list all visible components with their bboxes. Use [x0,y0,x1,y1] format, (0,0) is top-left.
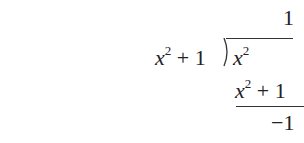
divisor: x2 + 1 [155,47,206,69]
quotient: 1 [283,7,294,29]
subtraction-line [236,106,304,107]
product-row: x2 + 1 [235,80,286,102]
division-bar-top [226,38,293,39]
division-bracket [223,38,233,68]
remainder: −1 [271,112,294,134]
dividend: x2 [233,47,249,69]
